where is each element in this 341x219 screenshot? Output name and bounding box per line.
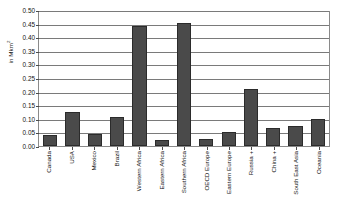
bar: [199, 139, 213, 146]
x-label-slot: Oceania: [308, 151, 330, 217]
x-axis-tick-mark: [207, 147, 208, 150]
x-axis-category-label: Mexico: [91, 151, 97, 171]
bar: [155, 140, 169, 146]
y-axis-tick-label: 0.15: [13, 103, 35, 109]
x-axis-category-label: South East Asia: [293, 151, 299, 195]
x-axis-tick-mark: [319, 147, 320, 150]
bar-slot: [128, 12, 150, 146]
x-axis-category-label: USA: [69, 151, 75, 164]
bar: [132, 26, 146, 146]
x-axis-category-label: Brazil: [114, 151, 120, 166]
y-axis-tick-label: 0.20: [13, 89, 35, 95]
y-axis-tick-label: 0.00: [13, 144, 35, 150]
x-axis-tick-mark: [251, 147, 252, 150]
bar-slot: [106, 12, 128, 146]
x-axis-category-label: Eastern Africa: [158, 151, 164, 190]
x-axis-tick-mark: [94, 147, 95, 150]
x-label-slot: Mexico: [83, 151, 105, 217]
bar-slot: [61, 12, 83, 146]
bar-slot: [195, 12, 217, 146]
x-label-slot: USA: [60, 151, 82, 217]
x-axis-tick-mark: [117, 147, 118, 150]
x-label-slot: Western Africa: [128, 151, 150, 217]
y-axis-tick-label: 0.05: [13, 130, 35, 136]
bar: [110, 117, 124, 146]
bar-slot: [173, 12, 195, 146]
x-axis-category-label: Western Africa: [136, 151, 142, 191]
x-axis-category-label: Canada: [46, 151, 52, 173]
y-axis-tick-label: 0.25: [13, 76, 35, 82]
bar-slot: [240, 12, 262, 146]
x-axis-category-label: OECD Europe: [203, 151, 209, 191]
bars-container: [39, 12, 329, 146]
x-axis-category-label: Southern Africa: [181, 151, 187, 193]
x-axis-tick-mark: [184, 147, 185, 150]
x-label-slot: Russia +: [240, 151, 262, 217]
bar: [88, 134, 102, 146]
bar: [222, 132, 236, 146]
bar-slot: [151, 12, 173, 146]
x-label-slot: Canada: [38, 151, 60, 217]
bar: [177, 23, 191, 146]
x-label-slot: South East Asia: [285, 151, 307, 217]
bar: [311, 119, 325, 146]
x-axis-category-label: Eastern Europe: [226, 151, 232, 194]
bar-slot: [262, 12, 284, 146]
x-label-slot: Southern Africa: [173, 151, 195, 217]
bar: [65, 112, 79, 146]
bar: [244, 89, 258, 146]
x-label-slot: Eastern Africa: [150, 151, 172, 217]
x-label-slot: China +: [263, 151, 285, 217]
y-axis-tick-label: 0.10: [13, 117, 35, 123]
bar: [43, 135, 57, 146]
bar-slot: [284, 12, 306, 146]
bar-slot: [218, 12, 240, 146]
x-axis-category-label: Oceania: [316, 151, 322, 174]
x-axis-tick-mark: [72, 147, 73, 150]
y-axis-tick-label: 0.30: [13, 62, 35, 68]
x-axis-tick-mark: [296, 147, 297, 150]
x-axis-tick-mark: [49, 147, 50, 150]
x-axis-tick-mark: [139, 147, 140, 150]
y-axis-tick-label: 0.40: [13, 35, 35, 41]
bar-chart-figure: in Mkm2 0.000.050.100.150.200.250.300.35…: [0, 0, 341, 219]
x-axis-category-labels: CanadaUSAMexicoBrazilWestern AfricaEaste…: [38, 151, 330, 217]
x-axis-category-label: Russia +: [248, 151, 254, 175]
bar: [288, 126, 302, 146]
x-label-slot: Brazil: [105, 151, 127, 217]
y-axis-tick-label: 0.50: [13, 8, 35, 14]
y-axis-tick-label: 0.35: [13, 49, 35, 55]
x-axis-category-label: China +: [271, 151, 277, 173]
bar: [266, 128, 280, 146]
x-axis-tick-mark: [229, 147, 230, 150]
x-label-slot: Eastern Europe: [218, 151, 240, 217]
bar-slot: [39, 12, 61, 146]
y-axis-tick-label: 0.45: [13, 21, 35, 27]
x-label-slot: OECD Europe: [195, 151, 217, 217]
y-axis-tick-labels: 0.000.050.100.150.200.250.300.350.400.45…: [11, 0, 35, 219]
bar-slot: [84, 12, 106, 146]
plot-area: [38, 11, 330, 147]
bar-slot: [307, 12, 329, 146]
